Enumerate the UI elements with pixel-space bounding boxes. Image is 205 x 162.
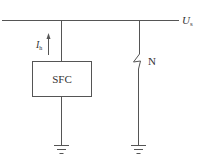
neutral-branch <box>134 21 141 146</box>
circuit-diagram: Us SFC Ih N <box>0 0 205 162</box>
ground-icon <box>131 146 146 154</box>
ground-icon <box>54 146 69 154</box>
sfc-label: SFC <box>52 73 72 85</box>
zigzag-break-icon <box>134 54 141 69</box>
bus-voltage-label: Us <box>182 14 193 28</box>
neutral-label: N <box>148 55 156 67</box>
current-arrow-icon <box>47 33 51 55</box>
current-label: Ih <box>35 39 42 51</box>
